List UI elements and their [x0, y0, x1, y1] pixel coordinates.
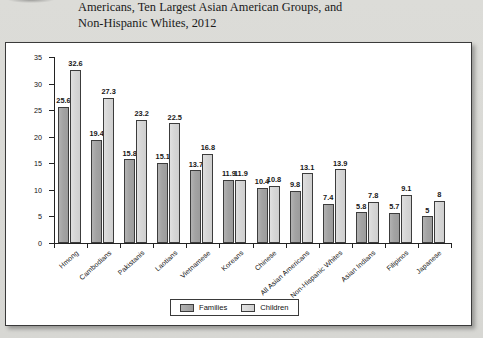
- bar-children: [103, 98, 114, 243]
- x-axis-category-label: Vietnamese: [179, 249, 212, 280]
- x-axis-tick: [418, 243, 419, 248]
- bar-value-label: 11.9: [234, 169, 248, 178]
- bar-families: [323, 204, 334, 243]
- bar-value-label: 19.4: [89, 129, 103, 138]
- caption-line-2: Non-Hispanic Whites, 2012: [78, 16, 468, 32]
- x-axis-tick: [219, 243, 220, 248]
- bar-value-label: 5: [425, 206, 429, 215]
- x-axis-tick: [87, 243, 88, 248]
- bar-children: [368, 202, 379, 243]
- y-axis-tick-label: 15: [34, 159, 42, 168]
- x-axis-category-label: Pakistanis: [116, 249, 145, 276]
- legend-label-families: Families: [199, 303, 227, 312]
- bar-value-label: 32.6: [68, 59, 82, 68]
- bar-children: [136, 120, 147, 243]
- bar-value-label: 16.8: [201, 143, 215, 152]
- legend-item-families[interactable]: Families: [180, 303, 227, 312]
- bar-value-label: 27.3: [101, 87, 115, 96]
- bar-value-label: 9.8: [290, 180, 300, 189]
- x-axis-tick: [120, 243, 121, 248]
- bar-families: [190, 170, 201, 243]
- x-axis-tick: [385, 243, 386, 248]
- cut-off-text-remnant: [8, 0, 54, 3]
- bar-group: 13.716.8: [186, 57, 219, 243]
- bar-children: [235, 180, 246, 243]
- bar-children: [169, 123, 180, 243]
- bar-children: [401, 195, 412, 243]
- bar-group: 58: [418, 57, 451, 243]
- x-axis-tick: [153, 243, 154, 248]
- legend-swatch-families: [180, 304, 194, 312]
- bar-group: 15.122.5: [153, 57, 186, 243]
- x-axis-category-label: Filipinos: [386, 249, 410, 272]
- y-axis-tick-label: 0: [38, 239, 42, 248]
- x-axis-tick: [286, 243, 287, 248]
- x-axis-category-label: Hmong: [57, 249, 79, 270]
- bar-group: 5.87.8: [352, 57, 385, 243]
- bar-value-label: 15.8: [122, 149, 136, 158]
- legend-item-children[interactable]: Children: [241, 303, 288, 312]
- figure-caption: Americans, Ten Largest Asian American Gr…: [78, 0, 468, 31]
- bar-value-label: 7.8: [368, 191, 378, 200]
- plot-area: 05101520253035 25.632.619.427.315.823.21…: [54, 57, 451, 243]
- legend-label-children: Children: [260, 303, 288, 312]
- bar-value-label: 23.2: [134, 109, 148, 118]
- x-axis-tick: [253, 243, 254, 248]
- page-background: Americans, Ten Largest Asian American Gr…: [0, 0, 483, 338]
- y-axis-tick-label: 30: [34, 79, 42, 88]
- bar-children: [434, 201, 445, 244]
- x-axis-category-label: Laotians: [153, 249, 178, 272]
- bar-group: 7.413.9: [319, 57, 352, 243]
- bar-value-label: 10.8: [267, 175, 281, 184]
- bar-value-label: 13.1: [300, 163, 314, 172]
- bar-value-label: 5.7: [389, 202, 399, 211]
- x-axis-category-label: Japanese: [415, 249, 443, 275]
- bar-children: [269, 186, 280, 243]
- bar-families: [91, 140, 102, 243]
- bar-group: 19.427.3: [87, 57, 120, 243]
- bar-families: [356, 212, 367, 243]
- bar-group: 9.813.1: [286, 57, 319, 243]
- x-axis-tick: [319, 243, 320, 248]
- bar-group: 5.79.1: [385, 57, 418, 243]
- x-axis-category-label: Cambodians: [78, 249, 113, 281]
- bar-children: [302, 173, 313, 243]
- y-axis-tick-label: 25: [34, 106, 42, 115]
- x-axis-category-label: Asian Indians: [340, 249, 377, 283]
- bar-value-label: 5.8: [356, 202, 366, 211]
- y-axis-tick-label: 10: [34, 185, 42, 194]
- bar-families: [422, 216, 433, 243]
- bar-group: 10.410.8: [253, 57, 286, 243]
- bar-value-label: 13.7: [189, 160, 203, 169]
- bar-children: [70, 70, 81, 243]
- bar-value-label: 9.1: [401, 184, 411, 193]
- bar-value-label: 13.9: [333, 159, 347, 168]
- chart-panel: 05101520253035 25.632.619.427.315.823.21…: [5, 42, 472, 326]
- bar-families: [223, 180, 234, 243]
- bar-group: 11.911.9: [219, 57, 252, 243]
- y-axis-tick-label: 20: [34, 132, 42, 141]
- y-axis-tick-label: 35: [34, 53, 42, 62]
- bar-value-label: 8: [437, 190, 441, 199]
- bar-families: [124, 159, 135, 243]
- bar-group: 25.632.6: [54, 57, 87, 243]
- bar-families: [389, 213, 400, 243]
- chart-legend: Families Children: [170, 299, 299, 316]
- x-axis-tick: [186, 243, 187, 248]
- bar-families: [290, 191, 301, 243]
- caption-line-1: Americans, Ten Largest Asian American Gr…: [78, 0, 468, 16]
- bar-value-label: 7.4: [323, 193, 333, 202]
- x-axis-tick: [352, 243, 353, 248]
- bar-families: [257, 188, 268, 243]
- x-axis-category-label: Chinese: [253, 249, 277, 272]
- bar-children: [202, 154, 213, 243]
- x-axis-category-label: Koreans: [220, 249, 245, 272]
- bar-families: [58, 107, 69, 243]
- bar-families: [157, 163, 168, 243]
- y-axis-tick-label: 5: [38, 212, 42, 221]
- bar-value-label: 25.6: [56, 96, 70, 105]
- x-axis-tick: [54, 243, 55, 248]
- bar-value-label: 15.1: [156, 152, 170, 161]
- bar-group: 15.823.2: [120, 57, 153, 243]
- bar-children: [335, 169, 346, 243]
